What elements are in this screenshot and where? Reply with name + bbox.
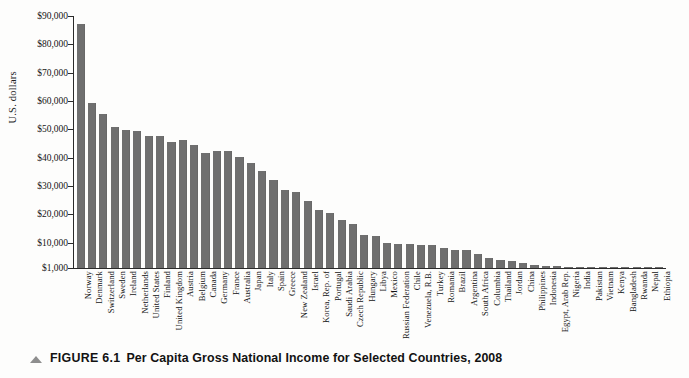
bar	[349, 224, 357, 268]
y-axis-tick-mark	[68, 129, 74, 130]
y-axis-tick-mark	[68, 44, 74, 45]
x-axis-tick-label: France	[232, 271, 241, 295]
x-axis-tick-label: Switzerland	[107, 271, 116, 313]
bar	[269, 180, 277, 268]
x-axis-tick-label: Romania	[447, 271, 456, 303]
x-axis-tick-label: Argentina	[470, 271, 479, 306]
x-axis-tick-label: Greece	[288, 271, 297, 296]
y-axis-tick-mark	[68, 16, 74, 17]
x-axis-tick-label: Ethiopia	[663, 271, 672, 301]
y-axis-tick-label: $30,000	[20, 181, 68, 191]
bar	[88, 103, 96, 268]
bar	[530, 265, 538, 268]
x-axis-tick-label: Egypt, Arab Rep.	[561, 271, 570, 332]
bar	[338, 220, 346, 268]
bar	[258, 171, 266, 268]
x-axis-tick-label: Korea, Rep. of	[322, 271, 331, 323]
bar	[213, 151, 221, 268]
x-axis-tick-label: United Kingdom	[175, 271, 184, 330]
x-axis-tick-label: India	[583, 271, 592, 289]
bar	[372, 236, 380, 268]
bar	[610, 267, 618, 269]
x-axis-tick-label: Canada	[209, 271, 218, 297]
bar	[553, 266, 561, 268]
x-axis-tick-label: Rwanda	[640, 271, 649, 300]
x-axis-tick-label: United States	[152, 271, 161, 318]
x-axis-tick-label: Hungary	[368, 271, 377, 302]
y-axis-tick-mark	[68, 243, 74, 244]
y-axis-tick-mark	[68, 214, 74, 215]
x-axis-tick-label: Austria	[186, 271, 195, 297]
x-axis-tick-label: Kenya	[617, 271, 626, 294]
bar	[599, 267, 607, 269]
x-axis-tick-label: Netherlands	[141, 271, 150, 314]
bar	[77, 24, 85, 268]
x-axis-tick-label: Thailand	[504, 271, 513, 302]
bar	[644, 267, 652, 269]
bar	[485, 258, 493, 268]
x-axis-tick-label: Turkey	[436, 271, 445, 296]
bar	[360, 235, 368, 268]
x-axis-tick-label: Ireland	[129, 271, 138, 296]
bar	[462, 250, 470, 268]
bar	[508, 261, 516, 268]
y-axis-label: U.S. dollars	[7, 104, 18, 124]
bar	[451, 250, 459, 268]
bar	[394, 244, 402, 268]
bar	[621, 267, 629, 269]
x-axis-tick-label: Finland	[163, 271, 172, 298]
bar	[122, 130, 130, 268]
y-axis-tick-mark	[68, 158, 74, 159]
x-axis-tick-label: Nigeria	[572, 271, 581, 297]
bar	[99, 114, 107, 268]
x-axis-tick-label: Sweden	[118, 271, 127, 299]
x-axis-tick-label: Nepal	[651, 271, 660, 292]
bar	[145, 136, 153, 268]
y-axis-line	[73, 16, 74, 269]
bar	[655, 267, 663, 269]
bar	[417, 245, 425, 268]
bar	[179, 140, 187, 268]
y-axis-tick-label: $70,000	[20, 68, 68, 78]
y-axis-tick-label: $40,000	[20, 153, 68, 163]
y-axis-tick-mark	[68, 101, 74, 102]
x-axis-tick-label: Czech Republic	[356, 271, 365, 327]
x-axis-tick-label: Brazil	[458, 271, 467, 293]
y-axis-tick-label: $10,000	[20, 238, 68, 248]
bar	[428, 245, 436, 268]
x-axis-tick-label: Mexico	[390, 271, 399, 298]
x-axis-tick-label: Philippines	[538, 271, 547, 311]
x-axis-tick-label: Venezuela, R.B.	[424, 271, 433, 328]
y-axis-tick-label: $1,000	[20, 263, 68, 273]
y-axis-tick-label: $50,000	[20, 124, 68, 134]
y-axis-tick-label: $60,000	[20, 96, 68, 106]
bar	[496, 260, 504, 268]
x-axis-tick-label: Chile	[413, 271, 422, 290]
figure-title: Per Capita Gross National Income for Sel…	[126, 351, 502, 365]
x-axis-tick-label: Vietnam	[606, 271, 615, 301]
bar	[156, 136, 164, 268]
y-axis-tick-mark	[68, 268, 74, 269]
x-axis-tick-label: China	[527, 271, 536, 292]
bar	[167, 142, 175, 268]
bar	[383, 243, 391, 268]
bar	[315, 210, 323, 268]
bar	[224, 151, 232, 268]
y-axis-tick-label: $20,000	[20, 209, 68, 219]
bar	[190, 145, 198, 268]
x-axis-tick-label: Israel	[311, 271, 320, 291]
bar	[281, 190, 289, 268]
y-axis-tick-mark	[68, 186, 74, 187]
bar-chart: U.S. dollars $90,000$80,000$70,000$60,00…	[0, 0, 689, 340]
bar	[519, 263, 527, 268]
x-axis-tick-label: Jordan	[515, 271, 524, 295]
x-axis-tick-label: Italy	[266, 271, 275, 287]
x-axis-tick-label: Denmark	[95, 271, 104, 304]
bar	[542, 266, 550, 268]
x-axis-line	[73, 268, 666, 269]
x-axis-tick-label: New Zealand	[300, 271, 309, 318]
x-axis-tick-label: Portugal	[334, 271, 343, 301]
bar	[292, 192, 300, 268]
bar	[406, 244, 414, 268]
x-axis-tick-label: Indonesia	[549, 271, 558, 305]
